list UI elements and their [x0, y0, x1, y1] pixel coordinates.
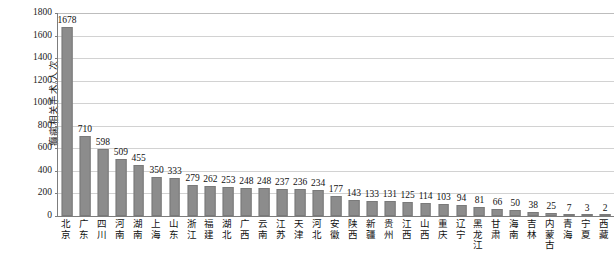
bar[interactable] [241, 188, 252, 216]
y-tick-label: 1400 [12, 53, 52, 63]
x-tick-label: 山西 [418, 219, 432, 240]
bar-value-label: 25 [546, 202, 556, 212]
bar[interactable] [474, 207, 485, 216]
x-tick-label: 重庆 [436, 219, 450, 240]
bar-slot[interactable]: 177 [327, 13, 345, 216]
x-tick-label: 西藏 [597, 219, 611, 240]
bar[interactable] [313, 190, 324, 216]
bar-value-label: 3 [585, 204, 590, 214]
bar[interactable] [600, 214, 611, 216]
x-tick-label: 浙江 [185, 219, 199, 240]
bar-slot[interactable]: 262 [201, 13, 219, 216]
x-tick-label: 陕西 [346, 219, 360, 240]
y-tick-label: 200 [12, 189, 52, 199]
bar-value-label: 7 [567, 204, 572, 214]
bar[interactable] [420, 203, 431, 216]
bar-slot[interactable]: 3 [578, 13, 596, 216]
bar-value-label: 248 [257, 177, 271, 187]
bar[interactable] [438, 204, 449, 216]
bar[interactable] [62, 27, 73, 216]
bar-value-label: 509 [114, 148, 128, 158]
bar[interactable] [546, 213, 557, 216]
bar-slot[interactable]: 236 [291, 13, 309, 216]
bar[interactable] [331, 196, 342, 216]
bar[interactable] [151, 177, 162, 216]
bar[interactable] [456, 205, 467, 216]
bar[interactable] [492, 209, 503, 216]
bar-slot[interactable]: 25 [542, 13, 560, 216]
x-tick-label: 黑龙江 [471, 219, 485, 251]
bar-slot[interactable]: 131 [381, 13, 399, 216]
x-tick-label: 河北 [310, 219, 324, 240]
bar[interactable] [402, 202, 413, 216]
bar-slot[interactable]: 234 [309, 13, 327, 216]
bar-value-label: 66 [493, 198, 503, 208]
bar-slot[interactable]: 81 [471, 13, 489, 216]
bar-slot[interactable]: 50 [506, 13, 524, 216]
bar-slot[interactable]: 333 [166, 13, 184, 216]
bar-slot[interactable]: 248 [255, 13, 273, 216]
y-tick-label: 1200 [12, 76, 52, 86]
bar-slot[interactable]: 7 [560, 13, 578, 216]
bar[interactable] [115, 159, 126, 216]
x-tick-label: 四川 [95, 219, 109, 240]
bar[interactable] [384, 201, 395, 216]
bar-slot[interactable]: 237 [273, 13, 291, 216]
bar[interactable] [349, 200, 360, 216]
bar-slot[interactable]: 1678 [58, 13, 76, 216]
bar-value-label: 350 [150, 166, 164, 176]
bar[interactable] [259, 188, 270, 216]
bar-value-label: 81 [475, 196, 485, 206]
bar-value-label: 131 [383, 190, 397, 200]
bar-slot[interactable]: 66 [488, 13, 506, 216]
x-tick-label: 江苏 [274, 219, 288, 240]
x-tick-label: 青海 [561, 219, 575, 240]
bar-slot[interactable]: 248 [237, 13, 255, 216]
bar-value-label: 133 [365, 190, 379, 200]
bar-slot[interactable]: 710 [76, 13, 94, 216]
bar-value-label: 143 [347, 189, 361, 199]
y-tick-label: 600 [12, 144, 52, 154]
bar[interactable] [169, 178, 180, 216]
bar-slot[interactable]: 143 [345, 13, 363, 216]
x-tick-label: 辽宁 [454, 219, 468, 240]
bar-value-label: 177 [329, 185, 343, 195]
bar[interactable] [223, 187, 234, 216]
x-tick-label: 吉林 [525, 219, 539, 240]
x-tick-label: 贵州 [382, 219, 396, 240]
bar-slot[interactable]: 125 [399, 13, 417, 216]
bar-slot[interactable]: 509 [112, 13, 130, 216]
bar[interactable] [295, 189, 306, 216]
bar-slot[interactable]: 2 [596, 13, 614, 216]
bar[interactable] [528, 212, 539, 216]
bar-value-label: 710 [78, 125, 92, 135]
bar-slot[interactable]: 455 [130, 13, 148, 216]
bar-slot[interactable]: 133 [363, 13, 381, 216]
bar[interactable] [564, 214, 575, 216]
bar-value-label: 50 [511, 199, 521, 209]
bar-value-label: 237 [275, 178, 289, 188]
bar[interactable] [510, 210, 521, 216]
bar[interactable] [133, 165, 144, 216]
bar-slot[interactable]: 38 [524, 13, 542, 216]
bar[interactable] [582, 214, 593, 216]
y-tick-label: 1000 [12, 98, 52, 108]
bar-slot[interactable]: 253 [219, 13, 237, 216]
y-tick-label: 1600 [12, 31, 52, 41]
x-tick-label: 宁夏 [579, 219, 593, 240]
bar[interactable] [97, 149, 108, 216]
bar-slot[interactable]: 350 [148, 13, 166, 216]
bar[interactable] [187, 185, 198, 216]
bar-slot[interactable]: 114 [417, 13, 435, 216]
bar[interactable] [205, 186, 216, 216]
bar[interactable] [366, 201, 377, 216]
bar[interactable] [277, 189, 288, 216]
bar[interactable] [80, 136, 91, 216]
x-tick-label: 江西 [400, 219, 414, 240]
x-tick-label: 山东 [167, 219, 181, 240]
bar-slot[interactable]: 94 [453, 13, 471, 216]
bar-slot[interactable]: 103 [435, 13, 453, 216]
bar-slot[interactable]: 279 [184, 13, 202, 216]
x-tick-label: 河南 [113, 219, 127, 240]
bar-slot[interactable]: 598 [94, 13, 112, 216]
